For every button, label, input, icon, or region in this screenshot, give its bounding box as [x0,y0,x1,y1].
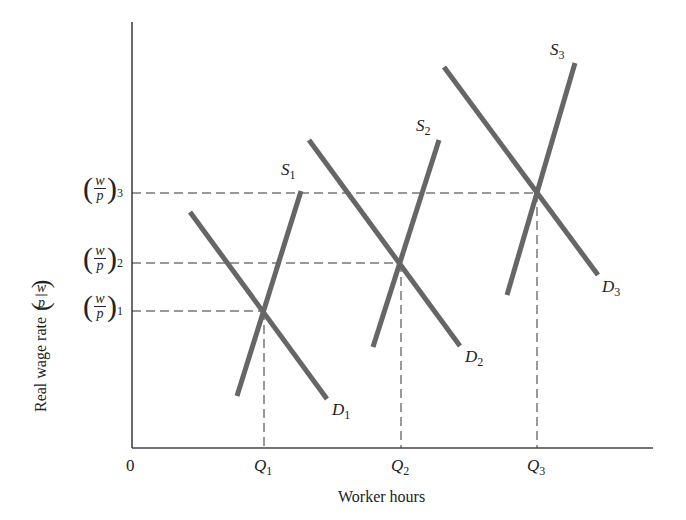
label-s3: S3 [550,40,565,63]
x-tick-q2: Q2 [391,456,409,479]
x-tick-q3: Q3 [527,456,545,479]
origin-label: 0 [126,456,135,476]
y-tick-wage-2: ( wp ) 2 [83,243,123,273]
x-tick-q1: Q1 [254,456,272,479]
supply-curve-3 [507,63,575,295]
supply-curve-1 [237,191,301,396]
label-d3: D3 [602,277,620,300]
fraction: wp [94,244,106,273]
paren-open: ( [83,173,93,203]
x-axis-title: Worker hours [338,488,425,506]
label-d2: D2 [465,347,483,370]
fraction: wp [35,281,47,310]
paren-open: ( [83,291,93,321]
label-s2: S2 [416,116,431,139]
paren-close: ) [107,243,117,273]
label-s1: S1 [281,160,296,183]
demand-curve-1 [190,212,327,399]
fraction: wp [94,174,106,203]
paren-close: ) [107,173,117,203]
paren-open: ( [83,243,93,273]
y-axis-title: Real wage rate ( wp ) [26,280,56,412]
y-tick-wage-3: ( wp ) 3 [83,173,123,203]
y-tick-wage-1: ( wp ) 1 [83,291,123,321]
fraction: wp [94,292,106,321]
paren-close: ) [107,291,117,321]
label-d1: D1 [332,400,350,423]
